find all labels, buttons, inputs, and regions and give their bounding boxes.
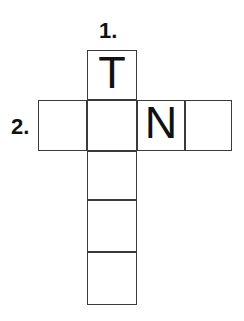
grid-cell-down-5[interactable] — [87, 252, 137, 305]
grid-cell-down-1[interactable]: T — [87, 50, 137, 100]
grid-cell-across-1[interactable] — [38, 100, 87, 151]
cell-letter: N — [138, 98, 184, 148]
grid-cell-across-2[interactable] — [87, 100, 137, 151]
clue-number-2: 2. — [11, 116, 29, 138]
grid-cell-down-4[interactable] — [87, 200, 137, 252]
crossword-page: 1. 2. T N — [0, 0, 244, 321]
cell-letter: T — [88, 48, 136, 98]
grid-cell-across-3[interactable]: N — [137, 100, 185, 151]
grid-cell-down-3[interactable] — [87, 151, 137, 200]
grid-cell-across-4[interactable] — [185, 100, 232, 151]
clue-number-1: 1. — [99, 20, 117, 42]
